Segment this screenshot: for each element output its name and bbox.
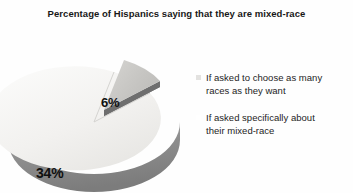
legend-item-label: If asked to choose as many races as they…	[206, 71, 322, 97]
pie-plot-area: 6% 34%	[0, 36, 192, 193]
chart-legend: If asked to choose as many races as they…	[196, 71, 351, 151]
pie-data-label-large: 34%	[36, 165, 63, 181]
chart-title: Percentage of Hispanics saying that they…	[0, 8, 353, 20]
legend-label-line1: If asked to choose as many	[206, 72, 322, 83]
legend-item-specifically-mixed-race[interactable]: If asked specifically about their mixed-…	[196, 111, 351, 137]
legend-label-line2: their mixed-race	[206, 125, 274, 136]
pie-data-label-small: 6%	[101, 95, 119, 110]
legend-item-label: If asked specifically about their mixed-…	[206, 111, 315, 137]
pie-chart-figure: Percentage of Hispanics saying that they…	[0, 0, 353, 193]
legend-swatch-icon	[196, 115, 201, 120]
pie-graphic	[0, 36, 192, 193]
legend-label-line2: races as they want	[206, 85, 286, 96]
legend-item-choose-many-races[interactable]: If asked to choose as many races as they…	[196, 71, 351, 97]
legend-swatch-icon	[196, 75, 201, 80]
legend-label-line1: If asked specifically about	[206, 112, 315, 123]
